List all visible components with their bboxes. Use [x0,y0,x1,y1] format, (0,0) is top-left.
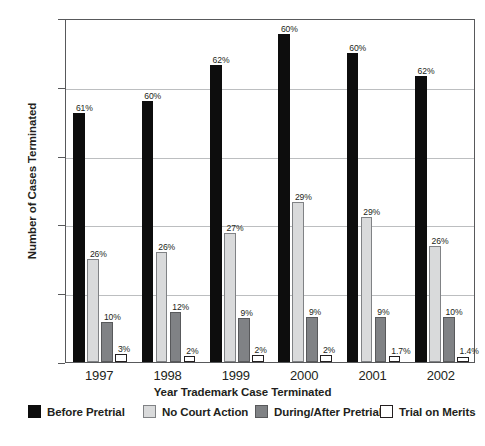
x-tick-label: 2002 [401,368,481,383]
bar-value-label: 9% [296,307,348,317]
bar [101,322,113,362]
bar [389,356,401,362]
bar-value-label: 26% [419,236,471,246]
bar [320,355,332,362]
gridline [66,89,474,90]
x-axis-title: Year Trademark Case Terminated [0,386,485,398]
legend-item[interactable]: Before Pretrial [28,405,125,418]
bar-value-label: 60% [337,43,389,53]
bar [306,317,318,362]
bar-value-label: 26% [77,249,129,259]
bar-value-label: 3% [105,344,157,354]
bar-value-label: 60% [268,24,320,34]
bar-value-label: 29% [351,207,403,217]
chart-legend: Before PretrialNo Court ActionDuring/Aft… [0,405,485,435]
y-tick-mark [58,157,65,158]
legend-label: During/After Pretrial [274,406,382,418]
bar-value-label: 12% [160,302,212,312]
bar-value-label: 9% [228,308,280,318]
bar-value-label: 26% [146,242,198,252]
bar [457,357,469,363]
light-gray-square-icon [143,405,156,418]
bar [252,355,264,362]
bar-value-label: 2% [242,345,294,355]
legend-label: No Court Action [162,406,248,418]
bar-value-label: 62% [405,66,457,76]
bar [361,217,373,362]
bar-value-label: 61% [63,103,115,113]
legend-label: Before Pretrial [47,406,125,418]
bar [115,354,127,362]
bar-chart: Number of Cases Terminated 0500100015002… [0,0,485,446]
bar [429,246,441,362]
bar-value-label: 1.7% [379,346,431,356]
bar-value-label: 10% [91,312,143,322]
bar [292,202,304,362]
gridline [66,158,474,159]
y-tick-mark [58,363,65,364]
bar-value-label: 29% [282,192,334,202]
bar [415,76,427,362]
bar-value-label: 2% [310,345,362,355]
bar [238,318,250,362]
bar [224,233,236,362]
bar-value-label: 9% [365,307,417,317]
y-tick-mark [58,88,65,89]
legend-item[interactable]: During/After Pretrial [255,405,382,418]
bar [73,113,85,362]
y-tick-mark [58,294,65,295]
bar [87,259,99,362]
y-tick-mark [58,19,65,20]
legend-item[interactable]: No Court Action [143,405,248,418]
bar-value-label: 62% [200,55,252,65]
bar-value-label: 1.4% [447,346,485,356]
bar-value-label: 60% [132,91,184,101]
y-tick-mark [58,225,65,226]
dark-gray-square-icon [255,405,268,418]
bar-value-label: 27% [214,223,266,233]
bar [184,356,196,362]
y-axis-title: Number of Cases Terminated [26,71,38,291]
bar [210,65,222,362]
black-square-icon [28,405,41,418]
bar-value-label: 10% [433,307,485,317]
bar-value-label: 2% [174,346,226,356]
gridline [66,295,474,296]
gridline [66,226,474,227]
legend-label: Trial on Merits [399,406,475,418]
legend-item[interactable]: Trial on Merits [380,405,475,418]
white-square-icon [380,405,393,418]
bar [142,101,154,362]
